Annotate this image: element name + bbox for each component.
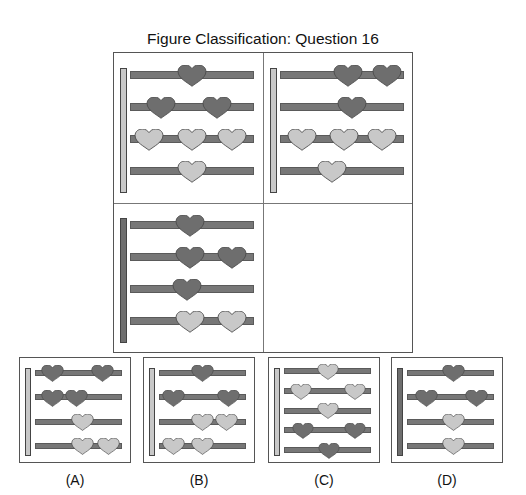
dark-heart-icon — [343, 423, 367, 443]
abacus-figure — [269, 358, 379, 462]
side-bar-light — [149, 368, 155, 456]
light-heart-icon — [316, 364, 340, 384]
dark-heart-icon — [216, 390, 241, 411]
dark-heart-icon — [464, 390, 489, 411]
dark-heart-icon — [174, 247, 206, 273]
light-heart-icon — [96, 438, 121, 459]
abacus-figure — [392, 358, 502, 462]
option-b-label[interactable]: (B) — [143, 472, 255, 488]
dark-heart-icon — [145, 97, 177, 123]
light-heart-icon — [216, 129, 248, 155]
light-heart-icon — [286, 129, 318, 155]
dark-heart-icon — [291, 423, 315, 443]
light-heart-icon — [441, 438, 466, 459]
grid-cell-2 — [264, 53, 414, 203]
dark-heart-icon — [90, 365, 115, 386]
light-heart-icon — [316, 161, 348, 187]
option-d[interactable] — [391, 357, 503, 463]
light-heart-icon — [366, 129, 398, 155]
side-bar-light — [270, 68, 277, 193]
side-bar-dark — [397, 368, 403, 456]
dark-heart-icon — [171, 279, 203, 305]
option-d-label[interactable]: (D) — [391, 472, 503, 488]
side-bar-light — [120, 68, 127, 193]
light-heart-icon — [161, 438, 186, 459]
abacus-figure — [144, 358, 254, 462]
light-heart-icon — [174, 311, 206, 337]
grid-cell-missing — [264, 203, 414, 353]
abacus-figure — [264, 53, 414, 203]
light-heart-icon — [70, 414, 95, 435]
light-heart-icon — [70, 438, 95, 459]
dark-heart-icon — [414, 390, 439, 411]
side-bar-dark — [120, 218, 127, 343]
light-heart-icon — [176, 161, 208, 187]
light-heart-icon — [328, 129, 360, 155]
light-heart-icon — [289, 384, 313, 404]
dark-heart-icon — [317, 443, 341, 463]
dark-heart-icon — [64, 390, 89, 411]
dark-heart-icon — [161, 390, 186, 411]
dark-heart-icon — [336, 97, 368, 123]
dark-heart-icon — [371, 65, 403, 91]
light-heart-icon — [316, 403, 340, 423]
grid-cell-1 — [114, 53, 264, 203]
light-heart-icon — [216, 311, 248, 337]
light-heart-icon — [133, 129, 165, 155]
dark-heart-icon — [40, 365, 65, 386]
dark-heart-icon — [216, 247, 248, 273]
dark-heart-icon — [40, 390, 65, 411]
grid-cell-3 — [114, 203, 264, 353]
option-c-label[interactable]: (C) — [268, 472, 380, 488]
dark-heart-icon — [332, 65, 364, 91]
abacus-figure — [20, 358, 130, 462]
light-heart-icon — [441, 414, 466, 435]
dark-heart-icon — [441, 365, 466, 386]
side-bar-light — [25, 368, 31, 456]
abacus-figure — [114, 53, 264, 203]
grid-divider-horizontal — [114, 203, 412, 204]
question-grid — [113, 52, 413, 353]
light-heart-icon — [190, 438, 215, 459]
dark-heart-icon — [176, 65, 208, 91]
light-heart-icon — [214, 414, 239, 435]
option-b[interactable] — [143, 357, 255, 463]
dark-heart-icon — [190, 365, 215, 386]
light-heart-icon — [190, 414, 215, 435]
option-a[interactable] — [19, 357, 131, 463]
light-heart-icon — [176, 129, 208, 155]
dark-heart-icon — [201, 97, 233, 123]
side-bar-light — [274, 368, 280, 456]
abacus-figure — [114, 203, 264, 353]
page-title: Figure Classification: Question 16 — [0, 30, 526, 48]
dark-heart-icon — [174, 215, 206, 241]
option-c[interactable] — [268, 357, 380, 463]
option-a-label[interactable]: (A) — [19, 472, 131, 488]
light-heart-icon — [343, 384, 367, 404]
